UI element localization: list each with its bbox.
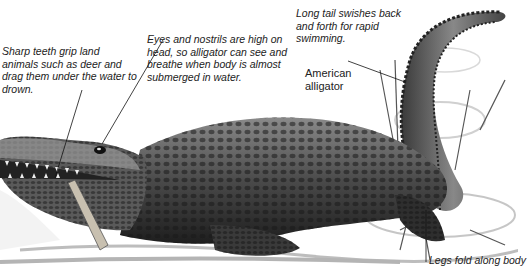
annotation-legs: Legs fold along body [429, 254, 529, 267]
annotation-tail: Long tail swishes back and forth for rap… [296, 7, 406, 45]
annotation-eyes-nostrils: Eyes and nostrils are high on head, so a… [147, 33, 297, 83]
annotation-teeth: Sharp teeth grip land animals such as de… [2, 45, 137, 95]
species-label: American alligator [305, 67, 365, 93]
